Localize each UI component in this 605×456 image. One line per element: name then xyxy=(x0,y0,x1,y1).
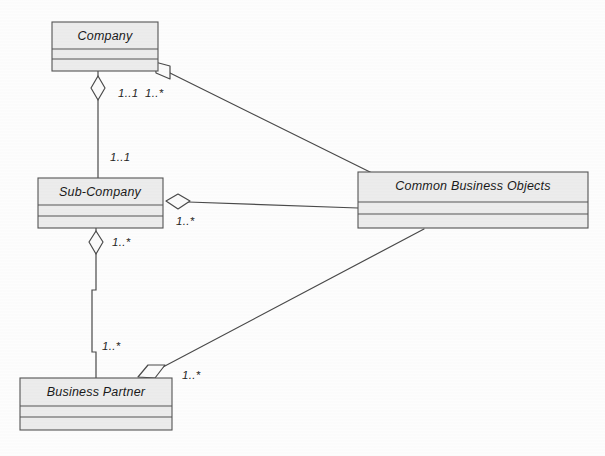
multiplicity-subcompany-top: 1..1 xyxy=(110,151,130,163)
aggregation-diamond-subcompany-down xyxy=(89,231,103,254)
link-subcompany-cbo xyxy=(188,202,358,208)
link-company-cbo xyxy=(170,73,372,173)
class-box-common-business-objects[interactable]: Common Business Objects xyxy=(358,172,588,228)
uml-class-diagram: Company Sub-Company Common Business Obje… xyxy=(0,0,605,456)
multiplicity-company-right: 1..* xyxy=(145,87,164,99)
multiplicity-subcompany-right: 1..* xyxy=(176,215,195,227)
aggregation-diamond-subcompany-right xyxy=(166,194,190,209)
class-box-business-partner[interactable]: Business Partner xyxy=(20,378,172,430)
multiplicity-subcompany-down: 1..* xyxy=(112,236,131,248)
multiplicity-businesspartner-up: 1..* xyxy=(102,340,121,352)
class-name-common-business-objects: Common Business Objects xyxy=(395,179,550,193)
link-businesspartner-cbo xyxy=(163,229,424,367)
class-name-company: Company xyxy=(78,29,133,43)
multiplicity-company-down: 1..1 xyxy=(118,87,138,99)
multiplicity-businesspartner-right: 1..* xyxy=(182,369,201,381)
aggregation-diamond-businesspartner-right xyxy=(138,365,165,378)
aggregation-diamond-company-down xyxy=(91,76,105,100)
class-name-sub-company: Sub-Company xyxy=(59,185,142,199)
class-box-sub-company[interactable]: Sub-Company xyxy=(38,178,163,228)
class-name-business-partner: Business Partner xyxy=(47,385,146,399)
class-box-company[interactable]: Company xyxy=(52,22,158,71)
diagram-canvas: Company Sub-Company Common Business Obje… xyxy=(0,0,605,456)
